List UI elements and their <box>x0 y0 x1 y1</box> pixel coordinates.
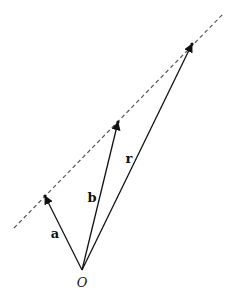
label-origin: O <box>77 275 88 290</box>
point-b <box>116 120 119 123</box>
label-r: r <box>126 151 133 166</box>
label-b: b <box>87 190 96 205</box>
vector-r-arrow <box>82 44 192 270</box>
label-a: a <box>51 226 60 241</box>
point-r <box>190 42 193 45</box>
vector-line-diagram: a b r O <box>0 0 234 302</box>
point-a <box>43 194 46 197</box>
